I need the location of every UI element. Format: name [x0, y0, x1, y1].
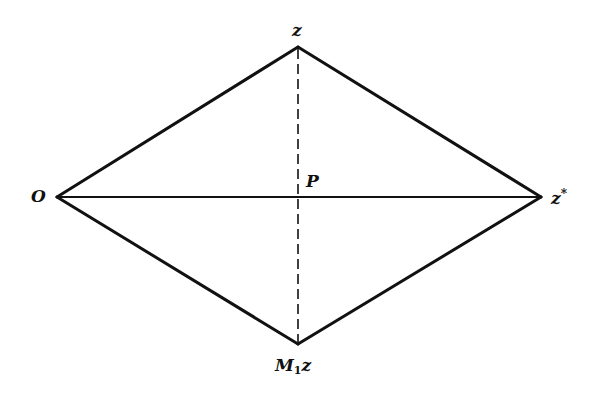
label-m1z-base: M — [275, 355, 294, 375]
label-vertex-z: z — [292, 22, 302, 39]
label-p-text: P — [306, 171, 319, 191]
label-zstar-base: z — [551, 188, 561, 208]
label-z-text: z — [292, 20, 302, 40]
label-o-text: O — [31, 186, 46, 206]
edge-o-z — [57, 47, 298, 197]
edge-m1z-o — [57, 197, 298, 344]
label-vertex-m1z: M1z — [275, 357, 311, 376]
label-center-p: P — [306, 173, 319, 190]
edge-z-zstar — [298, 47, 541, 197]
edge-zstar-m1z — [298, 197, 541, 344]
label-vertex-zstar: z* — [551, 188, 567, 207]
rhombus-diagram — [0, 0, 599, 403]
label-vertex-o: O — [31, 188, 46, 205]
label-m1z-tail: z — [301, 355, 311, 375]
label-zstar-sup: * — [561, 187, 567, 201]
